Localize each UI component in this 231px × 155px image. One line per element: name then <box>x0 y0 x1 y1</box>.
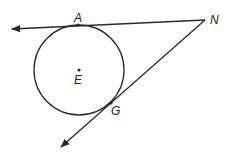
label-n: N <box>210 13 219 27</box>
diagram-canvas: A N E G <box>0 0 231 155</box>
label-g: G <box>111 104 120 118</box>
point-e-dot <box>77 68 80 71</box>
label-e: E <box>74 73 83 87</box>
tangent-ray-na <box>12 20 205 29</box>
label-a: A <box>73 11 82 25</box>
tangent-ray-ng <box>61 20 205 147</box>
